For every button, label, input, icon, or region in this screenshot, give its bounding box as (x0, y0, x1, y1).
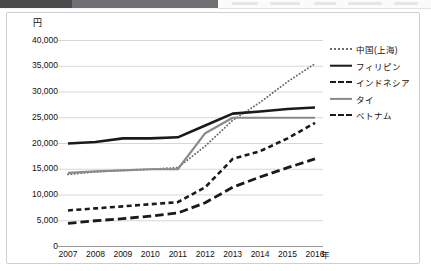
y-axis-tick-label: 30,000 (14, 87, 58, 96)
legend-swatch-icon (330, 110, 352, 120)
gridlines (58, 41, 323, 247)
y-axis-tick-label: 15,000 (14, 164, 58, 173)
legend-item[interactable]: タイ (330, 91, 426, 108)
series-line (68, 107, 315, 143)
legend-swatch-icon (330, 61, 352, 71)
legend-item-label: 中国(上海) (356, 43, 398, 55)
chart-legend: 中国(上海)フィリピンインドネシアタイベトナム (330, 41, 426, 124)
legend-item[interactable]: フィリピン (330, 58, 426, 75)
legend-item-label: インドネシア (356, 76, 410, 88)
series-line (68, 64, 315, 175)
legend-swatch-icon (330, 94, 352, 104)
legend-swatch-icon (330, 77, 352, 87)
y-axis-tick-label: 35,000 (14, 61, 58, 70)
legend-item[interactable]: 中国(上海) (330, 41, 426, 58)
y-axis-tick-label: 10,000 (14, 190, 58, 199)
legend-item[interactable]: ベトナム (330, 107, 426, 124)
legend-item-label: フィリピン (356, 60, 401, 72)
legend-item-label: ベトナム (356, 109, 392, 121)
legend-item[interactable]: インドネシア (330, 74, 426, 91)
y-axis-tick-label: 40,000 (14, 36, 58, 45)
y-axis-tick-label: 25,000 (14, 113, 58, 122)
chart-screenshot: 円 年 05,00010,00015,00020,00025,00030,000… (0, 0, 431, 271)
series-line (68, 118, 315, 173)
legend-item-label: タイ (356, 93, 374, 105)
series-line (68, 159, 315, 223)
x-axis-tick-label: 2016 (295, 249, 335, 259)
series-line (68, 123, 315, 211)
y-axis-tick-label: 5,000 (14, 216, 58, 225)
y-axis-tick-label: 20,000 (14, 139, 58, 148)
legend-swatch-icon (330, 44, 352, 54)
